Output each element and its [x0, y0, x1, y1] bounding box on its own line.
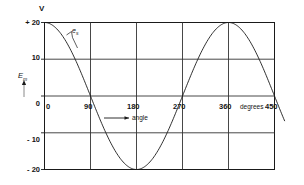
x-tick-label-0: 0 — [46, 103, 50, 111]
y-tick-label-minus-10: - 10 — [12, 136, 40, 144]
x-tick-label-90: 90 — [84, 103, 92, 111]
x-axis-unit-label: degrees — [240, 104, 264, 111]
curve-annotation-label: es — [72, 27, 78, 36]
angle-arrow-head — [125, 116, 130, 120]
cosine-wave-plot — [0, 0, 304, 185]
y-axis-unit-label: V — [39, 5, 44, 13]
y-tick-label-minus-20: - 20 — [12, 166, 40, 174]
angle-axis-label: angle — [132, 115, 148, 122]
x-tick-label-180: 180 — [127, 103, 140, 111]
curve-subscript: s — [76, 30, 79, 36]
y-tick-label-20: + 20 — [12, 19, 40, 27]
y-tick-label-10: 10 — [12, 54, 40, 62]
y-axis-quantity-label: Em — [18, 72, 27, 82]
y-tick-label-0: 0 — [12, 100, 40, 108]
x-tick-label-270: 270 — [173, 103, 186, 111]
x-tick-label-450: 450 — [265, 103, 278, 111]
x-tick-label-360: 360 — [219, 103, 232, 111]
chart-figure: V + 20 10 0 - 10 - 20 0 90 180 270 360 4… — [0, 0, 304, 185]
y-quantity-subscript: m — [23, 76, 27, 82]
